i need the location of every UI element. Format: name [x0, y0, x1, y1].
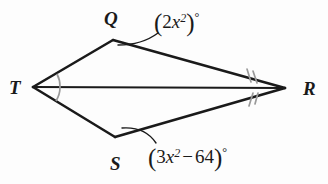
vertex-label-R: R: [303, 79, 316, 98]
angle-mark-T-upper: [57, 74, 60, 87]
side-TQ: [33, 40, 113, 87]
coefficient: 3: [156, 146, 166, 167]
constant: 64: [195, 146, 214, 167]
diagonal-TR: [33, 87, 285, 88]
vertex-label-S: S: [110, 154, 121, 173]
side-ST: [33, 87, 115, 137]
degree-symbol: °: [222, 145, 227, 159]
coefficient: 2: [162, 11, 172, 32]
angle-expression-S: (3x2−64)°: [148, 145, 227, 170]
angle-mark-T-lower: [56, 87, 60, 101]
close-paren: ): [186, 9, 194, 36]
vertex-label-Q: Q: [104, 9, 118, 28]
operator: −: [180, 146, 195, 167]
side-QR: [113, 40, 285, 88]
vertex-label-T: T: [9, 78, 21, 97]
angle-mark-R-upper: [247, 69, 257, 83]
angle-expression-Q: (2x2)°: [154, 10, 199, 35]
leader-line-angle-S: [122, 128, 156, 143]
variable: x: [172, 11, 180, 32]
degree-symbol: °: [195, 10, 200, 24]
angle-mark-R-lower: [249, 93, 258, 106]
variable: x: [166, 146, 174, 167]
